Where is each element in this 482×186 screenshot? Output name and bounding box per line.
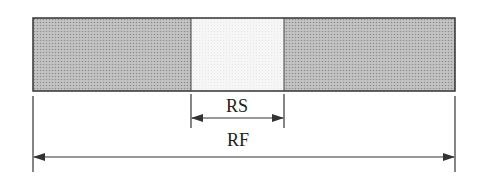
bar-dimension-diagram: RS RF	[0, 0, 482, 186]
middle-light-section	[191, 18, 284, 91]
right-shaded-section	[284, 18, 455, 91]
left-shaded-section	[33, 18, 191, 91]
rf-label: RF	[227, 130, 249, 150]
rs-label: RS	[226, 96, 248, 116]
